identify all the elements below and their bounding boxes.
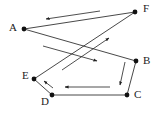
- arrow-d-to-e-icon: [44, 81, 53, 88]
- node-label-a: A: [9, 21, 17, 33]
- node-label-f: F: [143, 2, 149, 14]
- node-label-e: E: [22, 69, 29, 81]
- edge-f-a: [24, 12, 135, 29]
- node-b: [134, 59, 139, 64]
- arrow-b-to-c-icon: [120, 62, 125, 85]
- edge-d-e: [34, 79, 52, 95]
- arrow-f-to-a-icon: [46, 11, 100, 19]
- node-label-d: D: [41, 95, 49, 107]
- nodes-layer: [22, 10, 139, 98]
- node-a: [22, 27, 27, 32]
- arrow-e-to-f-icon: [62, 38, 109, 70]
- node-label-b: B: [143, 54, 150, 66]
- node-e: [32, 77, 37, 82]
- node-f: [133, 10, 138, 15]
- node-c: [125, 93, 130, 98]
- arrow-a-to-b-icon: [43, 46, 97, 61]
- edges-layer: [24, 12, 136, 95]
- direction-arrows-layer: [43, 11, 125, 88]
- labels-layer: AFBCDE: [9, 2, 150, 107]
- node-d: [50, 93, 55, 98]
- node-label-c: C: [134, 88, 141, 100]
- edge-e-f: [34, 12, 135, 79]
- cycle-diagram: AFBCDE: [0, 0, 160, 113]
